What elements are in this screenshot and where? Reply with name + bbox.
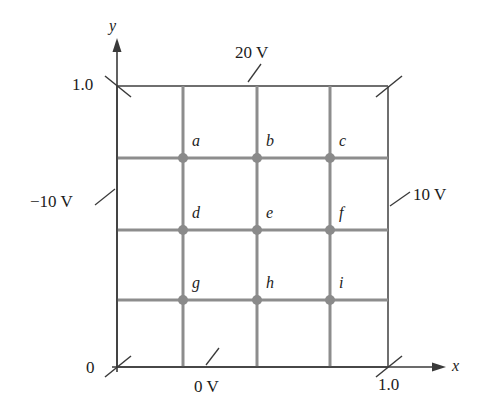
node-label-a: a [192,133,200,149]
y-axis-label: y [109,18,116,34]
y-max-tick-label: 1.0 [72,76,93,93]
axes [112,38,446,372]
boundary-potential-left: −10 V [30,193,73,210]
node-label-h: h [266,275,274,291]
boundary-potential-right: 10 V [413,186,446,203]
node-dot-d [178,225,188,235]
figure-root: y x 1.0 0 1.0 20 V 0 V −10 V 10 V a b c … [0,0,484,408]
boundary-potential-top: 20 V [235,44,268,61]
leader-line-top [248,64,261,82]
node-label-d: d [192,205,200,221]
node-dot-g [178,295,188,305]
node-label-c: c [339,133,346,149]
node-dot-f [325,225,335,235]
origin-label: 0 [86,359,95,376]
boundary-box [117,86,388,367]
y-axis-arrowhead [113,38,122,52]
leader-line-left [95,189,115,205]
x-axis-label: x [452,358,459,374]
x-axis-arrowhead [432,363,446,372]
node-label-e: e [266,205,273,221]
node-label-i: i [339,275,343,291]
node-dot-b [252,153,262,163]
node-dot-a [178,153,188,163]
leader-line-bottom [206,348,219,365]
node-dot-h [252,295,262,305]
leader-line-right [390,192,410,206]
leader-lines [95,64,410,365]
x-max-tick-label: 1.0 [378,376,399,393]
node-dot-i [325,295,335,305]
node-dot-c [325,153,335,163]
node-dot-e [252,225,262,235]
node-label-b: b [266,133,274,149]
node-label-f: f [339,205,343,221]
node-label-g: g [192,275,200,291]
boundary-potential-bottom: 0 V [194,378,219,395]
